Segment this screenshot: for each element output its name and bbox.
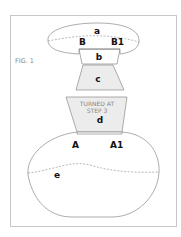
label-B: B xyxy=(79,37,86,47)
note-line-1: TURNED AT xyxy=(79,100,115,107)
label-a: a xyxy=(94,26,100,36)
label-B1: B1 xyxy=(111,37,124,47)
label-b: b xyxy=(96,52,103,62)
label-c: c xyxy=(95,74,100,84)
figure-caption: FIG. 1 xyxy=(15,57,34,65)
pattern-diagram: FIG. 1 c a B B1 b TURNED AT STEP 3 d A A… xyxy=(0,0,181,237)
note-line-2: STEP 3 xyxy=(87,107,108,114)
label-A: A xyxy=(72,140,79,150)
label-e: e xyxy=(54,170,60,180)
piece-e xyxy=(28,132,159,217)
label-A1: A1 xyxy=(110,140,123,150)
label-d: d xyxy=(97,115,103,125)
